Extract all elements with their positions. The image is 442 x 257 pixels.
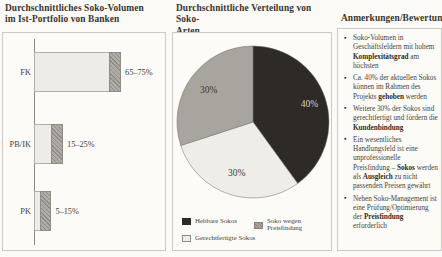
legend-item: Hebbare Sokos: [182, 218, 254, 225]
pie-slice-label: 30%: [228, 168, 246, 178]
legend-label: Soko wegen Preisfindung: [267, 218, 330, 232]
legend-swatch-dark: [182, 218, 191, 225]
bar-segment-min: [34, 124, 51, 164]
note-item: Soko-Volumen in Geschäftsfeldern mit hoh…: [344, 34, 439, 71]
bar-row: PB/IK15–25%: [3, 123, 163, 165]
notes-title: Anmerkungen/Bewertung: [341, 13, 441, 24]
bar-segment-range: [51, 124, 63, 164]
bar-chart-title: Durchschnittliches Soko-Volumen im Ist-P…: [5, 3, 165, 26]
bar-row: FK65–75%: [3, 51, 163, 93]
legend-swatch-light: [182, 235, 191, 242]
bar-chart-title-line2: im Ist-Portfolio von Banken: [5, 14, 119, 24]
legend-item: Soko wegen Preisfindung: [254, 218, 330, 232]
bar-segment-range: [40, 191, 52, 231]
bar-chart-box: FK65–75%PB/IK15–25%PK5–15%: [2, 32, 166, 251]
bar-segment-min: [34, 52, 109, 92]
bar-value-label: 15–25%: [67, 140, 95, 149]
bar-value-label: 65–75%: [125, 68, 153, 77]
legend-item: Gerechtfertigte Sokos: [182, 235, 330, 242]
pie-chart-title-line1: Durchschnittliche Verteilung von Soko-: [176, 3, 311, 24]
pie-legend: Hebbare SokosSoko wegen PreisfindungGere…: [182, 218, 330, 245]
bar-row: PK5–15%: [3, 190, 163, 232]
bar-chart-title-line1: Durchschnittliches Soko-Volumen: [5, 3, 144, 13]
note-item: Weitere 30% der Sokos sind gerechtfertig…: [344, 105, 439, 133]
notes-list: Soko-Volumen in Geschäftsfeldern mit hoh…: [338, 29, 441, 232]
pie-slice-label: 30%: [200, 85, 218, 95]
page: Durchschnittliches Soko-Volumen im Ist-P…: [0, 0, 442, 257]
pie-chart: 40%30%30%: [173, 33, 331, 213]
bar-value-label: 5–15%: [55, 207, 79, 216]
legend-swatch-hatch: [254, 222, 263, 229]
note-item: Neben Soko-Management ist eine Prüfung/O…: [344, 195, 439, 232]
note-item: Ca. 40% der aktuellen Sokos können im Ra…: [344, 74, 439, 102]
legend-label: Gerechtfertigte Sokos: [195, 235, 255, 242]
bar-category-label: FK: [3, 68, 34, 77]
bar-category-label: PB/IK: [3, 140, 34, 149]
pie-chart-box: 40%30%30% Hebbare SokosSoko wegen Preisf…: [172, 32, 332, 251]
bar-category-label: PK: [3, 207, 34, 216]
bar-segment-range: [109, 52, 121, 92]
notes-box: Soko-Volumen in Geschäftsfeldern mit hoh…: [337, 28, 442, 251]
note-item: Ein wesentliches Handlungsfeld ist eine …: [344, 136, 439, 192]
pie-slice-label: 40%: [301, 99, 319, 109]
legend-label: Hebbare Sokos: [195, 218, 237, 225]
